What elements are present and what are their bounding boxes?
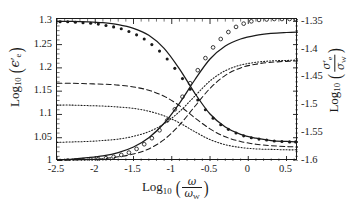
data-point-open <box>280 19 284 21</box>
data-point-filled <box>74 21 77 24</box>
y-right-log-base: 10 <box>332 83 342 92</box>
data-point-filled <box>97 23 100 26</box>
data-point-open <box>219 37 223 41</box>
y-right-axis-title: Log10 ( σ′e σW ) <box>321 20 348 140</box>
data-point-filled <box>280 140 283 143</box>
y-left-prime: ′ <box>7 57 22 60</box>
data-point-open <box>288 19 292 21</box>
x-axis-denominator: ωW <box>182 187 201 201</box>
y-left-subscript: e <box>13 53 23 57</box>
data-point-filled <box>196 98 199 101</box>
data-point-filled <box>234 132 237 135</box>
y-right-numerator-symbol: σ <box>320 62 332 69</box>
curve-permittivity-dotted <box>57 105 298 150</box>
y-right-paren-close: ) <box>324 48 346 53</box>
data-point-filled <box>189 88 192 91</box>
x-tick--1.5: -1.5 <box>113 164 153 175</box>
data-point-filled <box>158 50 161 53</box>
data-point-open <box>242 22 246 26</box>
y-right-paren-open: ( <box>324 74 346 79</box>
data-point-open <box>150 136 154 140</box>
y-right-tick--1.6: -1.6 <box>301 155 345 166</box>
curve-conductivity-dotted <box>57 60 298 142</box>
data-point-open <box>196 68 200 72</box>
curve-permittivity-dashed <box>57 83 298 147</box>
y-right-denominator-subscript: W <box>340 56 348 63</box>
curves-layer <box>57 21 298 160</box>
data-point-filled <box>227 128 230 131</box>
data-point-filled <box>81 21 84 24</box>
markers-permittivity-filled-dots <box>59 20 298 143</box>
data-point-open <box>257 19 261 22</box>
x-axis-denominator-subscript: W <box>193 193 200 201</box>
figure-canvas: 11.051.11.151.21.251.3 -1.6-1.55-1.5-1.4… <box>0 0 351 209</box>
y-right-denominator: σW <box>335 54 349 72</box>
data-point-filled <box>166 57 169 60</box>
y-left-paren-close: ) <box>5 48 27 53</box>
data-point-filled <box>212 117 215 120</box>
curve-permittivity-solid <box>57 21 298 142</box>
x-tick--1: -1 <box>151 164 191 175</box>
data-point-open <box>211 46 215 50</box>
curve-conductivity-dashed <box>57 61 298 161</box>
data-point-open <box>227 30 231 34</box>
data-point-open <box>119 153 123 157</box>
x-axis-denominator-symbol: ω <box>184 187 192 199</box>
data-point-filled <box>135 33 138 36</box>
y-left-paren-open: ( <box>5 68 27 73</box>
y-right-numerator: σ′e <box>321 54 334 72</box>
data-point-filled <box>66 20 69 23</box>
x-tick-0: 0 <box>227 164 267 175</box>
y-left-log-text: Log <box>7 86 22 107</box>
data-point-open <box>272 19 276 21</box>
data-point-filled <box>127 30 130 33</box>
data-point-filled <box>219 123 222 126</box>
x-tick--0.5: -0.5 <box>189 164 229 175</box>
y-left-log-base: 10 <box>13 77 23 86</box>
data-point-filled <box>59 20 62 23</box>
data-point-filled <box>288 140 291 143</box>
data-point-filled <box>250 136 253 139</box>
data-point-open <box>265 19 269 21</box>
x-tick--2: -2 <box>74 164 114 175</box>
x-axis-paren-open: ( <box>176 177 181 199</box>
data-point-filled <box>150 43 153 46</box>
y-left-axis-title: Log10 (ϵ′e) <box>5 17 27 137</box>
x-axis-ratio: ω ωW <box>182 176 201 201</box>
data-point-open <box>234 25 238 29</box>
x-axis-title: Log10 ( ω ωW ) <box>0 176 351 201</box>
data-point-open <box>204 56 208 60</box>
data-point-open <box>249 19 253 23</box>
y-right-ratio: σ′e σW <box>321 54 348 72</box>
plot-frame <box>56 18 297 160</box>
data-point-filled <box>265 139 268 142</box>
y-left-epsilon-symbol: ϵ <box>7 60 22 67</box>
data-point-filled <box>242 134 245 137</box>
data-point-filled <box>204 108 207 111</box>
data-point-filled <box>257 138 260 141</box>
x-axis-numerator: ω <box>182 176 201 187</box>
y-right-log-text: Log <box>326 92 341 113</box>
y-right-denominator-symbol: σ <box>335 63 347 70</box>
x-axis-log-text: Log <box>142 179 163 194</box>
y-right-numerator-subscript: e <box>326 57 334 60</box>
data-point-filled <box>181 77 184 80</box>
data-point-filled <box>120 27 123 30</box>
data-point-open <box>135 147 139 151</box>
x-axis-paren-close: ) <box>203 177 208 199</box>
x-axis-log-base: 10 <box>163 186 172 196</box>
data-point-filled <box>173 67 176 70</box>
x-tick-0.5: 0.5 <box>266 164 306 175</box>
data-point-filled <box>104 24 107 27</box>
data-point-open <box>127 151 131 155</box>
data-point-open <box>142 142 146 146</box>
x-tick--2.5: -2.5 <box>36 164 76 175</box>
data-point-filled <box>112 25 115 28</box>
data-point-filled <box>143 37 146 40</box>
data-point-filled <box>294 140 297 143</box>
data-point-filled <box>89 22 92 25</box>
data-point-filled <box>273 139 276 142</box>
y-right-numerator-prime: ′ <box>321 60 332 62</box>
plot-canvas <box>57 19 298 161</box>
